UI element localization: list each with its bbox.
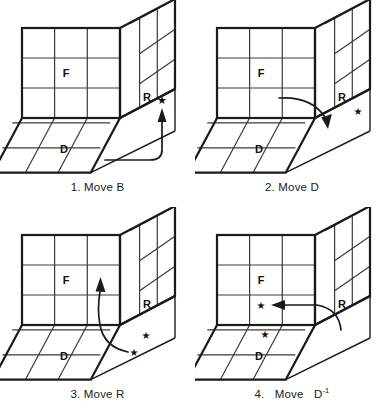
move-arrow-1 — [105, 108, 167, 160]
face-label-right-1: R — [143, 91, 151, 103]
face-label-down-4: D — [255, 350, 263, 362]
star-marker-1a: ★ — [157, 94, 167, 107]
cube-diagram-2: F R D ★ — [195, 0, 389, 207]
face-label-front-2: F — [258, 67, 265, 79]
face-label-down-2: D — [255, 143, 263, 155]
face-label-right-2: R — [338, 91, 346, 103]
figure-panel-2: F R D ★ 2. Move D — [195, 0, 389, 207]
cube-diagram-4: F R D ★ ★ — [195, 207, 389, 414]
figure-caption-3: 3. Move R — [0, 388, 195, 400]
face-label-front-3: F — [63, 274, 70, 286]
caption-text-1: 1. Move B — [71, 181, 125, 193]
cube-diagram-3: F R D ★ ★ — [0, 207, 195, 414]
caption-text-3: 3. Move R — [70, 388, 124, 400]
cube-front-face-outline-3 — [22, 235, 120, 325]
caption-move-exponent-4: -1 — [322, 386, 329, 395]
face-label-right-3: R — [143, 298, 151, 310]
face-label-front-4: F — [258, 274, 265, 286]
figure-panel-3: F R D ★ ★ 3. Move R — [0, 207, 195, 414]
caption-move-word-4: Move — [275, 388, 304, 400]
star-marker-4a: ★ — [257, 300, 266, 311]
cube-diagram-1: F R D ★ — [0, 0, 195, 207]
cube-front-face-outline-4 — [217, 235, 315, 325]
cube-front-face-outline-2 — [217, 28, 315, 118]
figure-panel-4: F R D ★ ★ 4. Move D-1 — [195, 207, 389, 414]
star-marker-2a: ★ — [354, 106, 363, 117]
star-marker-3b: ★ — [130, 347, 139, 358]
figure-caption-2: 2. Move D — [195, 181, 389, 193]
face-label-right-4: R — [338, 298, 346, 310]
cube-front-face-outline-1 — [22, 28, 120, 118]
star-marker-4b: ★ — [261, 329, 270, 340]
face-label-down-3: D — [60, 350, 68, 362]
face-label-front-1: F — [63, 67, 70, 79]
star-marker-3a: ★ — [142, 330, 151, 341]
face-label-down-1: D — [60, 143, 68, 155]
caption-number-4: 4. — [255, 388, 265, 400]
figure-caption-4: 4. Move D-1 — [195, 388, 389, 400]
caption-text-2: 2. Move D — [265, 181, 319, 193]
figure-panel-1: F R D ★ 1. Move B — [0, 0, 195, 207]
figure-grid: F R D ★ 1. Move B — [0, 0, 389, 414]
figure-caption-1: 1. Move B — [0, 181, 195, 193]
